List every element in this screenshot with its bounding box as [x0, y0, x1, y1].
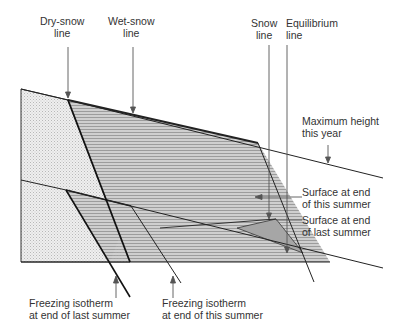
- surface-this-summer-label: Surface at end of this summer: [302, 186, 371, 210]
- dry-snow-line-label: Dry-snow line: [40, 15, 84, 39]
- snow-zones-diagram: [0, 0, 401, 334]
- max-height-label: Maximum height this year: [302, 115, 379, 139]
- freezing-isotherm-this-label: Freezing isotherm at end of this summer: [162, 297, 263, 321]
- snow-line-label: Snow line: [251, 17, 277, 41]
- freezing-isotherm-last-label: Freezing isotherm at end of last summer: [29, 297, 130, 321]
- surface-last-summer-label: Surface at end of last summer: [302, 214, 371, 238]
- equilibrium-line-label: Equilibrium line: [286, 17, 338, 41]
- wet-snow-line-label: Wet-snow line: [108, 15, 155, 39]
